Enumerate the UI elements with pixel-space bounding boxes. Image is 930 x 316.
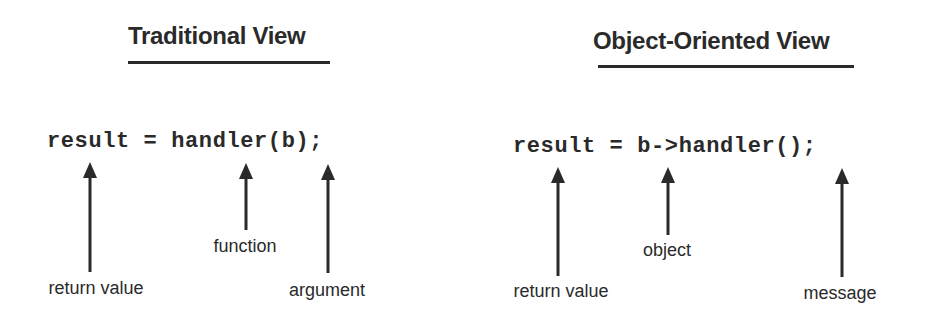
arrow-up-icon: [835, 168, 849, 277]
arrow-up-icon: [239, 163, 253, 230]
arrow-up-icon: [83, 162, 97, 272]
arrow-up-icon: [321, 164, 335, 273]
annotation-arrows: [0, 0, 930, 316]
arrow-up-icon: [661, 167, 675, 235]
arrow-up-icon: [551, 167, 565, 276]
